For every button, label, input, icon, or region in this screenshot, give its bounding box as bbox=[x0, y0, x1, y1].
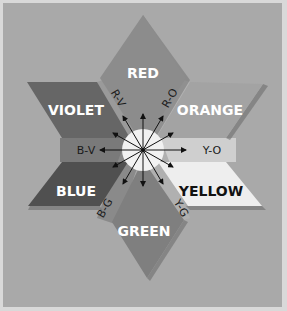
label-violet: VIOLET bbox=[48, 102, 104, 118]
label-blue-violet: B-V bbox=[77, 144, 96, 157]
label-yellow-orange: Y-O bbox=[202, 144, 222, 157]
label-yellow: YELLOW bbox=[178, 183, 243, 199]
label-red: RED bbox=[127, 65, 159, 81]
label-orange: ORANGE bbox=[177, 102, 243, 118]
label-green: GREEN bbox=[117, 223, 170, 239]
color-wheel-diagram: RED ORANGE YELLOW GREEN BLUE VIOLET R-V … bbox=[0, 0, 287, 311]
center-dot bbox=[141, 148, 145, 152]
label-blue: BLUE bbox=[56, 183, 96, 199]
